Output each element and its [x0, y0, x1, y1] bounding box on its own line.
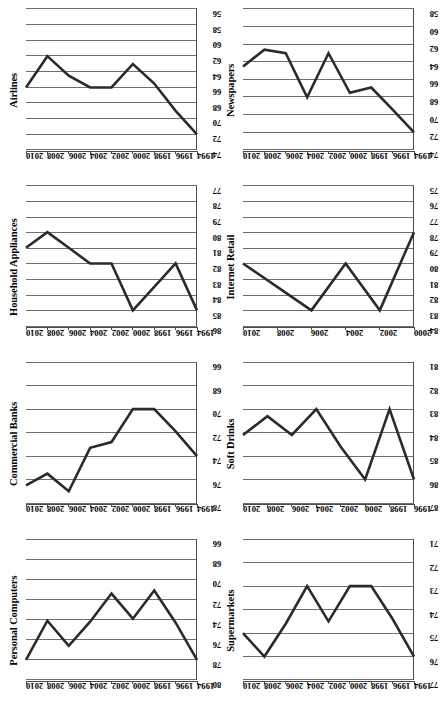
value-axis-label: 79: [430, 248, 439, 258]
value-axis-label: 58: [430, 9, 439, 19]
category-axis-label: 2010: [26, 681, 43, 691]
value-axis-label: 78: [213, 503, 222, 513]
plot-inner: [243, 539, 414, 680]
value-axis-label: 83: [430, 311, 439, 321]
series-plot: [243, 186, 414, 327]
series-plot: [26, 363, 197, 504]
category-axis-label: 2004: [307, 681, 324, 691]
category-axis-label: 2006: [292, 504, 309, 514]
value-axis-label: 83: [213, 280, 222, 290]
category-axis-label: 1998: [154, 151, 171, 161]
panel-supermarkets: Supermarkets1994199619982000200220042006…: [221, 532, 438, 709]
panel-title: Airlines: [8, 5, 21, 176]
category-axis-label: 2004: [316, 504, 333, 514]
value-axis-label: 76: [213, 640, 222, 650]
value-axis-label: 71: [430, 539, 439, 549]
panel-internet-retail: Internet Retail2000200220042006200820108…: [221, 179, 438, 356]
category-axis-label: 2010: [243, 504, 260, 514]
category-axis-label: 1996: [176, 504, 193, 514]
panel-household-appliances: Household Appliances19941996199820002002…: [4, 179, 221, 356]
category-axis-label: 2004: [90, 504, 107, 514]
value-axis-label: 76: [430, 201, 439, 211]
category-axis-label: 2000: [133, 151, 150, 161]
category-axis-label: 2004: [346, 328, 363, 338]
panel-personal-computers: Personal Computers1994199619982000200220…: [4, 532, 221, 709]
panel-soft-drinks: Soft Drinks19961998200020022004200620082…: [221, 356, 438, 533]
value-axis-label: 80: [430, 264, 439, 274]
category-axis-label: 1998: [371, 151, 388, 161]
category-axis-label: 2002: [329, 151, 346, 161]
value-axis-label: 79: [213, 217, 222, 227]
value-axis-labels: 8078767472706866: [198, 539, 217, 680]
series-line: [26, 233, 197, 311]
category-axis-label: 2000: [365, 504, 382, 514]
value-axis-label: 72: [213, 433, 222, 443]
series-line: [243, 586, 414, 656]
value-axis-labels: 86858483828180797877: [198, 186, 217, 327]
category-axis: 199419961998200020022004200620082010: [243, 151, 414, 176]
value-axis-label: 70: [213, 579, 222, 589]
category-axis: 200020022004200620082010: [243, 328, 414, 353]
value-axis-label: 82: [213, 264, 222, 274]
series-line: [243, 409, 414, 479]
category-axis: 199419961998200020022004200620082010: [26, 681, 197, 706]
value-axis-label: 62: [213, 56, 222, 66]
value-axis-label: 81: [213, 248, 222, 258]
plot-inner: [26, 9, 197, 150]
category-axis-label: 1998: [154, 504, 171, 514]
value-axis-label: 85: [430, 456, 439, 466]
panel-title: Newspapers: [225, 5, 238, 176]
value-axis-label: 86: [213, 327, 222, 337]
value-axis-label: 74: [213, 620, 222, 630]
series-line: [26, 56, 197, 134]
category-axis-label: 2008: [47, 681, 64, 691]
panel-title: Soft Drinks: [225, 359, 238, 530]
value-axis-label: 68: [430, 97, 439, 107]
value-axis-label: 70: [430, 115, 439, 125]
value-axis-label: 72: [213, 134, 222, 144]
value-axis-labels: 87868584838281: [415, 363, 434, 504]
category-axis-label: 2006: [286, 151, 303, 161]
value-axis-label: 74: [213, 150, 222, 160]
value-axis-label: 62: [430, 44, 439, 54]
value-axis-label: 80: [213, 680, 222, 690]
category-axis-label: 2002: [112, 504, 129, 514]
value-axis-label: 66: [430, 79, 439, 89]
category-axis-label: 2008: [267, 504, 284, 514]
category-axis-label: 1994: [197, 681, 214, 691]
category-axis-label: 2000: [133, 504, 150, 514]
category-axis-label: 1996: [393, 151, 410, 161]
value-axis-label: 81: [430, 363, 439, 373]
value-axis-label: 74: [213, 456, 222, 466]
plot-area: 1994199619982000200220042006200820107876…: [23, 359, 219, 530]
value-axis-label: 84: [430, 327, 439, 337]
value-axis-label: 75: [430, 633, 439, 643]
value-axis-label: 60: [430, 27, 439, 37]
plot-area: 1994199619982000200220042006200820107776…: [240, 535, 436, 706]
category-axis: 199419961998200020022004200620082010: [26, 328, 197, 353]
value-axis-label: 85: [213, 311, 222, 321]
figure-rotator: Personal Computers1994199619982000200220…: [0, 0, 442, 711]
category-axis-label: 2010: [243, 328, 260, 338]
value-axis-label: 84: [430, 433, 439, 443]
category-axis-label: 2008: [264, 681, 281, 691]
category-axis-label: 2006: [69, 151, 86, 161]
value-axis-label: 66: [213, 539, 222, 549]
value-axis-labels: 84838281807978777675: [415, 186, 434, 327]
plot-inner: [26, 363, 197, 504]
category-axis-label: 2006: [311, 328, 328, 338]
value-axis-label: 70: [213, 118, 222, 128]
series-plot: [243, 539, 414, 680]
value-axis-label: 82: [430, 295, 439, 305]
category-axis-label: 2000: [350, 151, 367, 161]
value-axis-label: 78: [213, 660, 222, 670]
value-axis-label: 74: [430, 150, 439, 160]
category-axis-label: 2008: [264, 151, 281, 161]
category-axis-label: 2010: [26, 151, 43, 161]
category-axis-label: 2002: [380, 328, 397, 338]
value-axis-label: 68: [213, 559, 222, 569]
plot-area: 1994199619982000200220042006200820108685…: [23, 182, 219, 353]
category-axis-label: 2004: [90, 328, 107, 338]
value-axis-label: 72: [213, 600, 222, 610]
panel-title: Commercial Banks: [8, 359, 21, 530]
